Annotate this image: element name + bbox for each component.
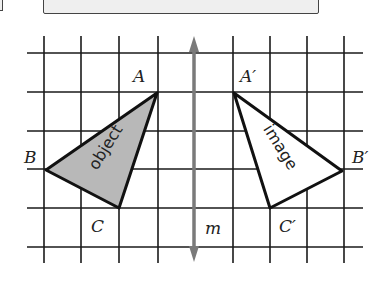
arrow-up-icon xyxy=(189,36,199,52)
vertex-label-b: B xyxy=(23,147,37,167)
arrow-down-icon xyxy=(189,246,199,262)
vertex-label-a-prime: A′ xyxy=(238,66,256,86)
vertex-label-c: C xyxy=(91,216,104,236)
mirror-line-label: m xyxy=(205,218,221,238)
vertex-label-a: A xyxy=(131,66,145,86)
vertex-label-c-prime: C′ xyxy=(279,216,296,236)
mirror-line-m xyxy=(189,36,199,262)
vertex-label-b-prime: B′ xyxy=(351,147,368,167)
reflection-diagram: object image A B C A′ B′ C′ m xyxy=(0,0,384,287)
